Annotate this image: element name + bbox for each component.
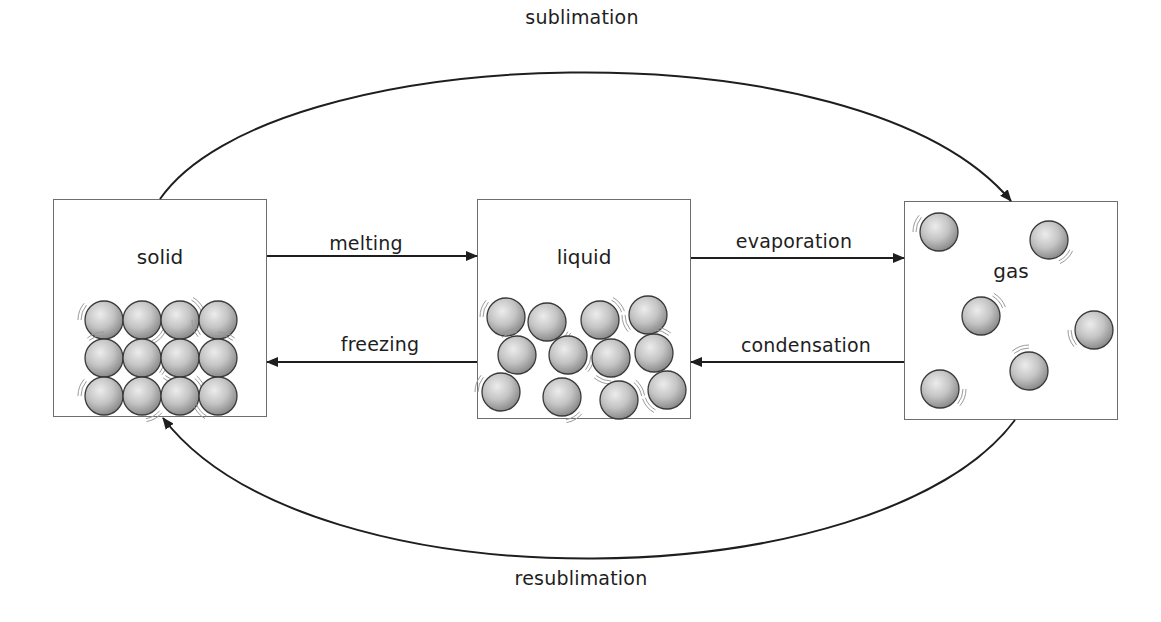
solid-particle: [161, 297, 204, 339]
solid-particle: [123, 301, 166, 344]
gas-particle: [921, 370, 966, 408]
liquid-particle: [480, 298, 525, 336]
liquid-particle: [600, 380, 645, 419]
sublimation-arrow: [160, 72, 1011, 201]
liquid-particle: [581, 297, 624, 339]
melting-label: melting: [329, 232, 403, 254]
resublimation-arrow: [163, 418, 1015, 559]
liquid-particle: [543, 378, 582, 423]
liquid-particle: [622, 296, 667, 334]
sublimation-label: sublimation: [525, 6, 638, 28]
gas-particle: [962, 293, 1005, 335]
gas-particle: [913, 213, 958, 251]
gas-particle: [1068, 311, 1113, 349]
liquid-particle: [635, 327, 673, 372]
evaporation-label: evaporation: [736, 230, 852, 252]
phase-diagram: solidliquidgas meltingfreezingevaporatio…: [0, 0, 1161, 622]
solid-particle: [194, 377, 237, 419]
solid-particle: [78, 301, 123, 339]
solid-particle: [78, 377, 123, 415]
resublimation-label: resublimation: [515, 567, 648, 589]
solid-particle: [85, 332, 123, 377]
gas-particle: [1030, 221, 1073, 264]
freezing-label: freezing: [341, 333, 419, 355]
diagram-canvas: [0, 0, 1161, 622]
particles: [78, 213, 1113, 423]
liquid-particle: [643, 371, 686, 413]
solid-particle: [199, 332, 237, 377]
solid-particle: [123, 377, 162, 422]
liquid-particle: [498, 329, 536, 374]
gas-particle: [1010, 345, 1048, 390]
liquid-particle: [549, 336, 594, 374]
liquid-particle: [592, 339, 630, 384]
condensation-label: condensation: [741, 334, 871, 356]
liquid-particle: [475, 373, 520, 411]
